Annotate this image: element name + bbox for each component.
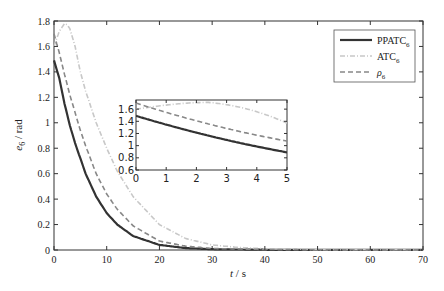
inset-frame — [136, 100, 287, 170]
y-tick-label: 1 — [45, 117, 50, 128]
y-tick-label: 0 — [45, 245, 50, 256]
x-tick-label: 60 — [365, 254, 375, 265]
inset-y-tick-label: 1.6 — [118, 104, 134, 115]
y-tick-label: 1.6 — [38, 41, 51, 52]
y-tick-label: 0.2 — [38, 219, 51, 230]
inset-y-tick-label: 1.4 — [118, 116, 134, 127]
legend: PPATC6ATC6ρ6 — [334, 30, 415, 82]
y-tick-label: 0.6 — [38, 168, 51, 179]
x-tick-label: 0 — [52, 254, 57, 265]
inset-x-tick-label: 2 — [193, 173, 199, 184]
inset-y-tick-label: 0.8 — [118, 152, 134, 163]
x-tick-label: 10 — [102, 254, 112, 265]
y-tick-label: 0.4 — [38, 194, 51, 205]
y-tick-label: 1.4 — [38, 66, 51, 77]
inset-x-tick-label: 5 — [284, 173, 290, 184]
x-tick-label: 20 — [154, 254, 164, 265]
inset-x-tick-label: 3 — [223, 173, 229, 184]
inset-x-tick-label: 1 — [163, 173, 169, 184]
inset-y-tick-label: 0.6 — [118, 165, 134, 176]
y-axis-label: e6 / rad — [12, 119, 27, 151]
chart-canvas: 01020304050607000.20.40.60.811.21.41.61.… — [0, 0, 444, 291]
x-tick-label: 30 — [207, 254, 217, 265]
y-tick-label: 1.2 — [38, 92, 51, 103]
y-tick-label: 0.8 — [38, 143, 51, 154]
x-tick-label: 40 — [260, 254, 270, 265]
inset-x-tick-label: 4 — [254, 173, 260, 184]
y-tick-label: 1.8 — [38, 16, 51, 27]
inset-y-tick-label: 1.2 — [118, 128, 134, 139]
x-axis-label: t / s — [230, 267, 246, 279]
x-tick-label: 50 — [313, 254, 323, 265]
x-tick-label: 70 — [418, 254, 428, 265]
inset-y-tick-label: 1 — [128, 140, 134, 151]
